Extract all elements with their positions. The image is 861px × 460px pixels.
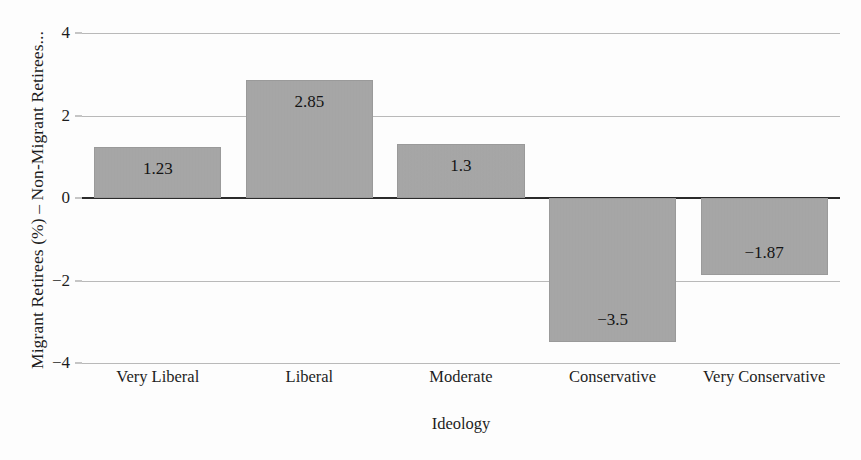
bar-group[interactable]: 1.3 <box>385 33 537 363</box>
y-axis-tick-mark <box>75 363 82 364</box>
x-axis-category-label: Conservative <box>537 367 689 387</box>
y-axis-tick-label: −4 <box>52 353 70 373</box>
bars-layer: 1.232.851.3−3.5−1.87 <box>82 33 840 363</box>
plot-area: 420−2−4 1.232.851.3−3.5−1.87 <box>82 33 840 363</box>
bar-value-label: 2.85 <box>234 92 386 112</box>
bar-group[interactable]: −3.5 <box>537 33 689 363</box>
x-axis-category-label: Very Conservative <box>688 367 840 387</box>
x-axis-category-label: Moderate <box>385 367 537 387</box>
y-axis-tick-mark <box>75 33 82 34</box>
bar-value-label: −3.5 <box>537 310 689 330</box>
y-axis-tick-mark <box>75 115 82 116</box>
y-axis-tick-label: −2 <box>52 271 70 291</box>
bar-group[interactable]: 2.85 <box>234 33 386 363</box>
bar-group[interactable]: −1.87 <box>688 33 840 363</box>
x-axis-title: Ideology <box>82 414 840 434</box>
bar-value-label: 1.3 <box>385 156 537 176</box>
gridline <box>82 363 840 364</box>
y-axis-tick-label: 4 <box>62 23 71 43</box>
y-axis-tick-label: 2 <box>62 106 71 126</box>
y-axis-tick-mark <box>75 280 82 281</box>
bar-group[interactable]: 1.23 <box>82 33 234 363</box>
y-axis-tick-label: 0 <box>62 188 71 208</box>
y-axis-title: Migrant Retirees (%) – Non-Migrant Retir… <box>22 0 52 400</box>
bar[interactable] <box>701 198 828 275</box>
bar-value-label: −1.87 <box>688 243 840 263</box>
x-axis-category-label: Very Liberal <box>82 367 234 387</box>
x-axis-category-label: Liberal <box>234 367 386 387</box>
y-axis-tick-mark <box>75 198 82 199</box>
bar-value-label: 1.23 <box>82 159 234 179</box>
bar-chart-figure: Migrant Retirees (%) – Non-Migrant Retir… <box>0 0 861 460</box>
x-axis-category-labels: Very LiberalLiberalModerateConservativeV… <box>82 367 840 397</box>
